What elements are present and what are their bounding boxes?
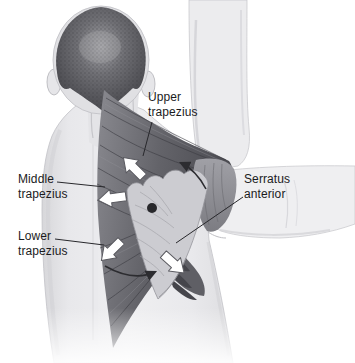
lower-trapezius-label: Lower trapezius bbox=[18, 229, 68, 259]
crown-highlight bbox=[79, 31, 121, 63]
upper-trapezius-label: Upper trapezius bbox=[148, 90, 198, 120]
raised-arm bbox=[189, 0, 250, 170]
bottom-fade bbox=[0, 308, 355, 363]
head bbox=[47, 6, 155, 114]
axis-dot bbox=[147, 203, 157, 213]
anatomy-figure: Upper trapezius Middle trapezius Lower t… bbox=[0, 0, 355, 363]
axilla-fold bbox=[208, 232, 226, 238]
serratus-anterior-label: Serratus anterior bbox=[244, 172, 290, 202]
middle-trapezius-label: Middle trapezius bbox=[18, 172, 68, 202]
